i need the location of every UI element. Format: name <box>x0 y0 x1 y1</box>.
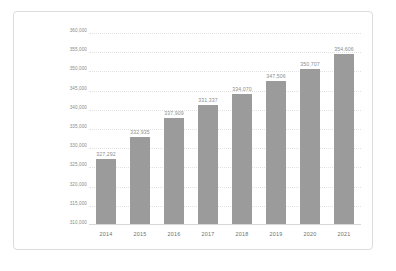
x-axis-tick-label: 2019 <box>270 231 283 237</box>
bar[interactable] <box>198 105 217 225</box>
y-axis-tick-label: 350,000 <box>58 66 87 71</box>
bar-value-label: 354,606 <box>334 46 353 52</box>
x-axis-tick-label: 2015 <box>134 231 147 237</box>
x-axis-tick-label: 2014 <box>100 231 113 237</box>
bar-value-label: 334,070 <box>232 86 251 92</box>
bar-value-label: 327,292 <box>96 151 115 157</box>
bar[interactable] <box>232 94 251 225</box>
y-axis-tick-label: 360,000 <box>58 28 87 33</box>
bar-slot: 332,935 <box>123 33 157 225</box>
bar-slot: 347,506 <box>259 33 293 225</box>
y-axis-tick-label: 340,000 <box>58 105 87 110</box>
y-axis-tick-label: 355,000 <box>58 47 87 52</box>
bar[interactable] <box>164 118 183 225</box>
bar[interactable] <box>300 69 319 225</box>
bar-value-label: 337,909 <box>164 110 183 116</box>
chart-frame: 360,000355,000350,000345,000340,000335,0… <box>13 11 373 250</box>
y-axis-tick-label: 315,000 <box>58 201 87 206</box>
bar-slot: 354,606 <box>327 33 361 225</box>
x-axis-line <box>89 224 361 225</box>
bar-value-label: 347,506 <box>266 73 285 79</box>
bar-slot: 337,909 <box>157 33 191 225</box>
bar-series: 327,292332,935337,909331,337334,070347,5… <box>89 33 361 225</box>
bar-slot: 327,292 <box>89 33 123 225</box>
bar-slot: 350,707 <box>293 33 327 225</box>
bar[interactable] <box>130 137 149 225</box>
plot-area: 360,000355,000350,000345,000340,000335,0… <box>58 33 361 225</box>
y-axis-tick-label: 335,000 <box>58 124 87 129</box>
y-axis-tick-label: 320,000 <box>58 182 87 187</box>
bar-slot: 331,337 <box>191 33 225 225</box>
x-axis-tick-label: 2017 <box>202 231 215 237</box>
y-axis-tick-label: 310,000 <box>58 220 87 225</box>
bar[interactable] <box>96 159 115 225</box>
x-axis-tick-label: 2018 <box>236 231 249 237</box>
bar-slot: 334,070 <box>225 33 259 225</box>
y-axis-tick-label: 325,000 <box>58 162 87 167</box>
x-axis-tick-label: 2021 <box>338 231 351 237</box>
x-axis-tick-label: 2016 <box>168 231 181 237</box>
y-axis-tick-label: 345,000 <box>58 86 87 91</box>
bar[interactable] <box>266 81 285 225</box>
bar-value-label: 331,337 <box>198 97 217 103</box>
x-axis-labels: 20142015201620172018201920202021 <box>89 231 361 243</box>
x-axis-tick-label: 2020 <box>304 231 317 237</box>
bar-value-label: 350,707 <box>300 61 319 67</box>
y-axis-tick-label: 330,000 <box>58 143 87 148</box>
bar-value-label: 332,935 <box>130 129 149 135</box>
bar[interactable] <box>334 54 353 225</box>
